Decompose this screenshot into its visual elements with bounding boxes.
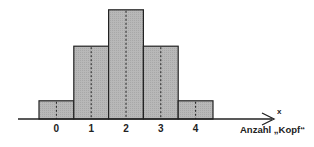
- histogram-chart: x 01234 Anzahl „Kopf“: [0, 0, 314, 147]
- x-axis-variable: x: [277, 107, 282, 116]
- x-tick-label: 0: [54, 123, 60, 134]
- x-axis-label: Anzahl „Kopf“: [240, 124, 305, 135]
- x-tick-label: 3: [158, 123, 164, 134]
- tick-labels: 01234: [54, 123, 199, 134]
- x-tick-label: 1: [88, 123, 94, 134]
- x-tick-label: 2: [123, 123, 129, 134]
- bars-group: [39, 10, 213, 119]
- x-tick-label: 4: [193, 123, 199, 134]
